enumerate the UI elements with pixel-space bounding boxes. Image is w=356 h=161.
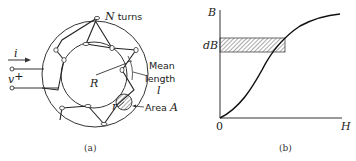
mean-length-label-2: length [145,73,175,84]
bh-curve-chart: B H 0 dB (b) [203,6,351,153]
mean-length-var: l [157,84,161,97]
radius-R-label: R [89,77,98,90]
x-axis-label: H [340,120,351,133]
radius-r-label: r [112,100,118,113]
dB-label: dB [203,39,218,52]
current-label: i [14,47,18,60]
current-arrow-icon [25,58,31,63]
bh-curve [220,14,340,118]
voltage-label: v+ [8,70,23,86]
n-turns-label: N turns [104,10,142,23]
toroid-diagram: N turns i v+ R r Mean length l Area A (a… [8,10,178,153]
terminal-bottom [10,86,14,90]
toroid-outer-circle [42,21,148,127]
caption-a: (a) [84,143,96,153]
area-label: Area A [145,101,178,114]
figure-canvas: N turns i v+ R r Mean length l Area A (a… [0,0,356,161]
mean-length-label-1: Mean [149,60,175,71]
origin-label: 0 [216,120,223,133]
caption-b: (b) [279,143,292,153]
y-axis-label: B [207,6,216,19]
area-arrow-icon [132,105,136,108]
